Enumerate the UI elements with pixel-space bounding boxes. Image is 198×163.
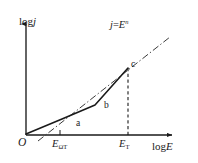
- x-tick-label-e-t-sub: T: [125, 143, 129, 150]
- origin-label: O: [18, 137, 26, 149]
- x-tick-label-e-omega-t: EΩT: [52, 139, 67, 150]
- y-axis-title-prefix: log: [19, 15, 33, 27]
- region-label-a: a: [76, 119, 80, 129]
- x-tick-label-e-t: ET: [119, 139, 129, 150]
- x-axis-title-var: E: [166, 140, 173, 152]
- region-label-b: b: [104, 101, 109, 111]
- y-axis-title: logj: [19, 16, 36, 27]
- figure-container: logj logE O EΩT ET j=En a b c: [0, 0, 198, 163]
- power-law-reference-line: [38, 37, 170, 141]
- x-axis-title: logE: [152, 141, 173, 152]
- equation-exponent: n: [125, 18, 128, 25]
- region-label-c: c: [131, 60, 135, 70]
- power-law-equation-label: j=En: [110, 20, 129, 31]
- y-axis-title-var: j: [33, 15, 36, 27]
- x-axis-title-prefix: log: [152, 140, 166, 152]
- x-tick-label-e-omega-t-sub: ΩT: [58, 143, 67, 150]
